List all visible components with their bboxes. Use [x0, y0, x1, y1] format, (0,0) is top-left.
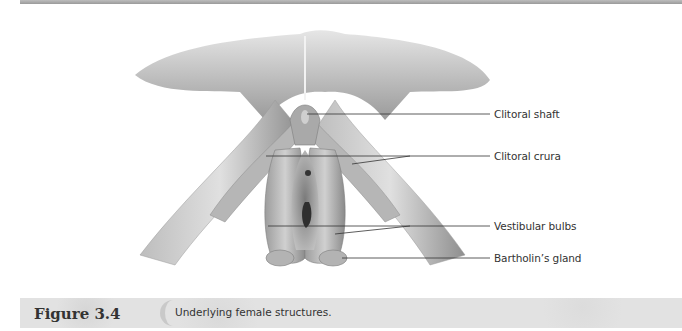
upper-tissue — [135, 30, 490, 120]
label-vestibular-bulbs: Vestibular bulbs — [494, 220, 576, 232]
label-clitoral-shaft: Clitoral shaft — [494, 108, 560, 120]
top-rule — [20, 0, 682, 4]
figure-caption: Underlying female structures. — [175, 306, 331, 318]
label-clitoral-crura: Clitoral crura — [494, 150, 561, 162]
anatomical-illustration: Clitoral shaft Clitoral crura Vestibular… — [0, 6, 682, 296]
label-bartholins-gland: Bartholin’s gland — [494, 252, 581, 264]
figure-number: Figure 3.4 — [34, 305, 121, 323]
